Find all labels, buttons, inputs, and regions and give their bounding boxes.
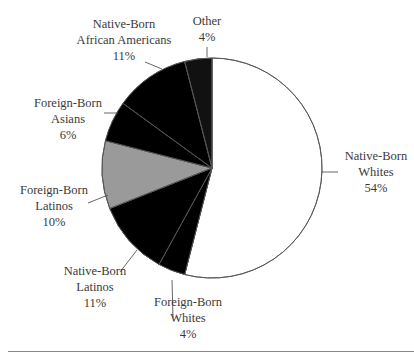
label-foreign-born-whites: Foreign-Born Whites 4% bbox=[154, 294, 222, 342]
label-line: Latinos bbox=[20, 198, 88, 214]
label-line: African Americans bbox=[77, 32, 172, 48]
label-foreign-born-latinos: Foreign-Born Latinos 10% bbox=[20, 182, 88, 230]
label-native-born-whites: Native-Born Whites 54% bbox=[345, 148, 407, 196]
label-line: Asians bbox=[34, 111, 102, 127]
label-line: Native-Born bbox=[64, 263, 126, 279]
label-native-born-african-americans: Native-Born African Americans 11% bbox=[77, 16, 172, 64]
label-line: Latinos bbox=[64, 279, 126, 295]
label-other: Other 4% bbox=[193, 13, 221, 45]
label-foreign-born-asians: Foreign-Born Asians 6% bbox=[34, 95, 102, 143]
label-line: Foreign-Born bbox=[34, 95, 102, 111]
bottom-divider bbox=[8, 351, 414, 352]
label-line: Native-Born bbox=[345, 148, 407, 164]
label-line: Foreign-Born bbox=[154, 294, 222, 310]
pie-slices bbox=[102, 58, 322, 278]
label-pct: 11% bbox=[64, 295, 126, 311]
label-line: Whites bbox=[345, 164, 407, 180]
label-line: Native-Born bbox=[77, 16, 172, 32]
label-pct: 4% bbox=[154, 326, 222, 342]
label-line: Whites bbox=[154, 310, 222, 326]
label-pct: 10% bbox=[20, 214, 88, 230]
label-line: Other bbox=[193, 13, 221, 29]
label-pct: 11% bbox=[77, 48, 172, 64]
label-line: Foreign-Born bbox=[20, 182, 88, 198]
label-pct: 54% bbox=[345, 180, 407, 196]
label-pct: 6% bbox=[34, 127, 102, 143]
label-pct: 4% bbox=[193, 29, 221, 45]
label-native-born-latinos: Native-Born Latinos 11% bbox=[64, 263, 126, 311]
